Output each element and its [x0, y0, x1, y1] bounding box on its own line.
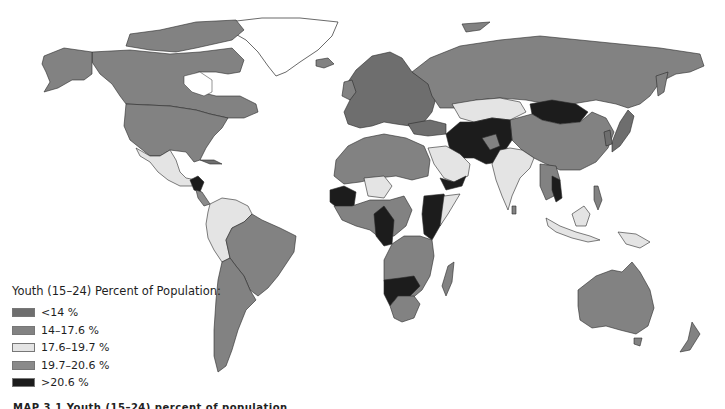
region-central-america — [190, 176, 204, 192]
legend-label: 19.7–20.6 % — [41, 359, 109, 372]
region-south-africa — [390, 296, 420, 322]
legend-title: Youth (15–24) Percent of Population: — [12, 284, 221, 298]
region-new-zealand — [680, 322, 700, 352]
region-russia — [412, 36, 704, 108]
legend-swatch — [12, 326, 35, 335]
region-philippines — [594, 186, 602, 210]
region-iceland — [316, 58, 334, 68]
map-caption: MAP 3.1 Youth (15–24) percent of populat… — [13, 402, 288, 409]
region-tasmania — [634, 338, 642, 346]
region-new-guinea — [618, 232, 650, 248]
region-alaska — [42, 48, 92, 92]
region-canada-islands — [126, 20, 244, 52]
region-india — [492, 148, 534, 210]
region-central-america-south — [196, 190, 210, 206]
region-niger — [364, 176, 392, 198]
legend-item-under-14: <14 % — [12, 304, 221, 322]
map-legend: Youth (15–24) Percent of Population: <14… — [12, 284, 221, 392]
region-europe — [344, 52, 436, 128]
legend-swatch — [12, 378, 35, 387]
legend-item-over-20-6: >20.6 % — [12, 374, 221, 392]
legend-item-14-17-6: 14–17.6 % — [12, 322, 221, 340]
legend-swatch — [12, 343, 35, 352]
region-australia — [578, 262, 654, 334]
legend-swatch — [12, 308, 35, 317]
legend-label: 17.6–19.7 % — [41, 341, 109, 354]
legend-item-19-7-20-6: 19.7–20.6 % — [12, 357, 221, 375]
region-cuba — [200, 160, 222, 164]
legend-label: 14–17.6 % — [41, 324, 99, 337]
region-laos-cambodia — [552, 176, 562, 202]
legend-label: <14 % — [41, 306, 78, 319]
legend-label: >20.6 % — [41, 376, 89, 389]
legend-item-17-6-19-7: 17.6–19.7 % — [12, 339, 221, 357]
region-borneo — [572, 206, 590, 226]
region-sri-lanka — [512, 206, 516, 214]
region-madagascar — [442, 262, 454, 296]
region-japan — [612, 110, 634, 152]
region-kamchatka — [656, 72, 668, 96]
region-indonesia — [546, 218, 600, 242]
region-russia-islands — [462, 22, 490, 32]
legend-swatch — [12, 361, 35, 370]
